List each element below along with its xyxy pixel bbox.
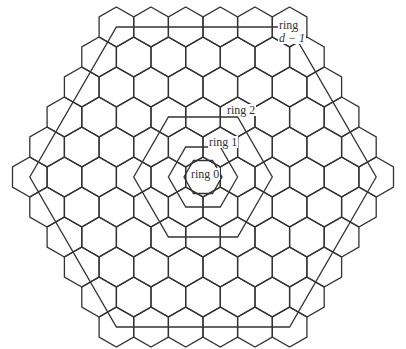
hex-cell [186, 37, 221, 77]
hex-cell [116, 97, 151, 137]
hex-cell [99, 247, 134, 287]
hex-cell [203, 67, 238, 107]
hex-cell [47, 157, 82, 197]
hex-cell [255, 277, 290, 317]
hex-cell [272, 247, 307, 287]
hex-cell [116, 277, 151, 317]
hex-cell [134, 247, 169, 287]
hex-cell [64, 187, 99, 227]
hex-cell [168, 247, 203, 287]
hex-cell [151, 277, 186, 317]
hex-cell [220, 37, 255, 77]
hex-cell [64, 127, 99, 167]
label-ring-0: ring 0 [190, 168, 220, 180]
hex-cell [290, 157, 325, 197]
hex-cell [255, 97, 290, 137]
hex-cell [99, 67, 134, 107]
hex-cell [220, 277, 255, 317]
hex-cell [82, 97, 117, 137]
hex-cell [272, 67, 307, 107]
label-ring-d-minus-1-bottom: d − 1 [278, 32, 306, 44]
hex-cell [307, 187, 342, 227]
label-ring-2: ring 2 [226, 104, 256, 116]
hex-cell [203, 247, 238, 287]
hex-cell [116, 217, 151, 257]
hex-cell [99, 187, 134, 227]
label-ring-1: ring 1 [208, 136, 238, 148]
hex-ring-diagram: ring 0 ring 1 ring 2 ring d − 1 [0, 0, 406, 349]
hex-cell [272, 187, 307, 227]
hex-cell [290, 97, 325, 137]
hex-cell [238, 247, 273, 287]
hex-cell [255, 217, 290, 257]
hex-cell [290, 217, 325, 257]
hex-cell [134, 67, 169, 107]
hex-cell [151, 37, 186, 77]
hex-cell [99, 127, 134, 167]
hex-cell [324, 157, 359, 197]
hex-cell [186, 277, 221, 317]
hex-cell [307, 127, 342, 167]
hex-cell [116, 37, 151, 77]
hex-cell [168, 67, 203, 107]
label-ring-d-minus-1-top: ring [278, 19, 299, 31]
hex-cell [82, 217, 117, 257]
hex-cell [82, 157, 117, 197]
hex-cell [272, 127, 307, 167]
hex-cell [238, 67, 273, 107]
